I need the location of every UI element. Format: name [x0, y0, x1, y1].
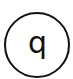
circled-letter-q: q — [4, 12, 71, 79]
circled-letter-canvas: q — [0, 0, 73, 79]
